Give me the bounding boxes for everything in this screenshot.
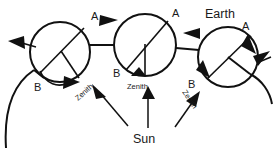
- earth-title-label: Earth: [205, 7, 235, 21]
- earth-left-terminator: [61, 51, 79, 78]
- earth-right-outer-curve: [250, 74, 272, 104]
- earth-right-tail: [228, 57, 250, 74]
- sun-ray-left: [92, 84, 128, 126]
- connector-middle-right: [176, 48, 199, 50]
- earth-left-label-a: A: [91, 10, 99, 22]
- earth-right-label-b: B: [188, 78, 195, 90]
- earth-right-label-a: A: [242, 20, 250, 32]
- orbit-curve-left: [6, 70, 34, 148]
- earth-left-rotation-arrowhead: [63, 76, 80, 89]
- sun-label: Sun: [133, 132, 155, 146]
- earth-middle-label-a: A: [172, 7, 180, 19]
- earth-left-a-arrow: [99, 15, 118, 26]
- earth-right-a-arrowhead: [241, 34, 256, 54]
- earth-right: [196, 27, 272, 104]
- earth-middle-zenith-marker: [131, 67, 146, 76]
- earth-middle-zenith-label: Zenith: [127, 82, 148, 91]
- earth-middle-label-b: B: [113, 67, 120, 79]
- earth-middle-axis: [126, 21, 168, 70]
- diagram-canvas: Earth A B A B Zenith A B Zenith Zenith S…: [0, 0, 276, 148]
- zenith-arrow-left-label-group: Zenith: [73, 82, 95, 103]
- sun-ray-center: [142, 86, 155, 128]
- orbit-seasons-diagram: Earth A B A B Zenith A B Zenith Zenith S…: [0, 0, 276, 148]
- earth-left: [30, 22, 90, 89]
- zenith-arrow-left-label: Zenith: [73, 82, 95, 103]
- earth-left-label-b: B: [34, 81, 41, 93]
- earth-middle-a-arrow: [183, 28, 200, 39]
- earth-middle: [114, 14, 176, 76]
